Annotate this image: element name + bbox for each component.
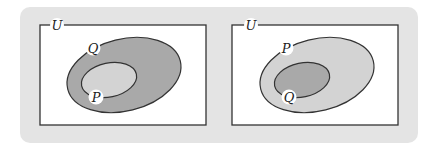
outer-set-label: Q — [88, 41, 99, 56]
universe-label: U — [52, 18, 64, 33]
inner-set-label: Q — [284, 90, 295, 105]
inner-set-label: P — [91, 90, 101, 105]
venn-diagram-panel: U Q P U P Q — [0, 0, 432, 150]
diagram-right: U P Q — [232, 18, 398, 125]
universe-label: U — [246, 18, 258, 33]
diagram-left: U Q P — [40, 18, 206, 125]
outer-set-label: P — [281, 41, 291, 56]
